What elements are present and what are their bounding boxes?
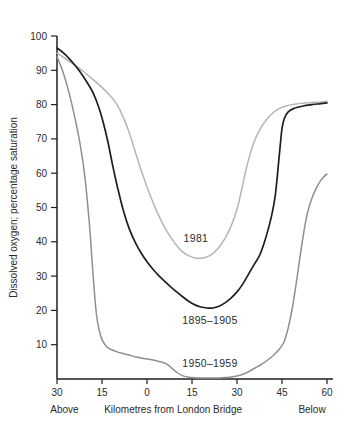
series-label-1895-1905: 1895–1905 (182, 314, 237, 326)
x-axis-tick-label: 45 (276, 387, 288, 398)
series-label-1981: 1981 (184, 232, 209, 244)
y-axis-title: Dissolved oxygen; percentage saturation (8, 117, 19, 298)
y-axis-tick-label: 20 (36, 305, 48, 316)
y-axis-tick-label: 70 (36, 133, 48, 144)
y-axis-tick-label: 40 (36, 236, 48, 247)
y-axis-tick-label: 10 (36, 339, 48, 350)
x-axis-right-label: Below (298, 404, 326, 415)
x-axis-tick-label: 15 (186, 387, 198, 398)
figure-page: 1020304050607080901003015015304560AboveK… (0, 0, 351, 440)
series-curve-1895-1905 (57, 48, 327, 308)
y-axis-tick-label: 60 (36, 168, 48, 179)
x-axis-tick-label: 60 (321, 387, 333, 398)
y-axis-tick-label: 50 (36, 202, 48, 213)
y-axis-tick-label: 80 (36, 99, 48, 110)
y-axis-tick-label: 30 (36, 271, 48, 282)
x-axis-tick-label: 15 (96, 387, 108, 398)
x-axis-tick-label: 30 (51, 387, 63, 398)
x-axis-title: Kilometres from London Bridge (104, 404, 242, 415)
series-label-1950-1959: 1950–1959 (182, 357, 237, 369)
y-axis-tick-label: 100 (30, 31, 47, 42)
series-curve-1981 (57, 53, 327, 258)
y-axis-tick-label: 90 (36, 65, 48, 76)
x-axis-left-label: Above (50, 404, 79, 415)
x-axis-tick-label: 0 (144, 387, 150, 398)
x-axis-tick-label: 30 (231, 387, 243, 398)
dissolved-oxygen-chart: 1020304050607080901003015015304560AboveK… (0, 0, 351, 440)
